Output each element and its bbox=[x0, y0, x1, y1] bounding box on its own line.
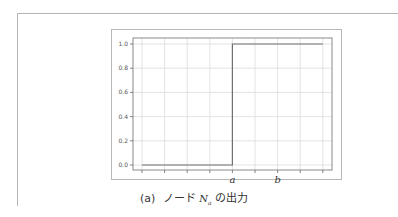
y-tick-label: 1.0 bbox=[118, 40, 128, 47]
caption-math: Na bbox=[199, 193, 211, 204]
caption-math-var: N bbox=[199, 193, 208, 204]
y-tick-label: 0.2 bbox=[118, 137, 128, 144]
caption-prefix: (a) bbox=[140, 192, 155, 205]
caption-text-before: ノード bbox=[163, 192, 196, 205]
x-tick-label-a: a bbox=[229, 174, 235, 185]
step-line bbox=[142, 44, 323, 165]
x-axis-ticks: ab bbox=[142, 170, 323, 185]
y-tick-label: 0.0 bbox=[118, 161, 128, 168]
figure-caption: (a) ノード Na の出力 bbox=[0, 189, 388, 206]
y-tick-label: 0.6 bbox=[118, 88, 128, 95]
y-tick-label: 0.4 bbox=[118, 113, 128, 120]
x-tick-label-b: b bbox=[274, 174, 280, 185]
caption-math-sub: a bbox=[208, 199, 212, 206]
caption-text-after: の出力 bbox=[215, 192, 248, 205]
y-axis-ticks: 0.00.20.40.60.81.0 bbox=[118, 40, 133, 168]
y-tick-label: 0.8 bbox=[118, 64, 128, 71]
